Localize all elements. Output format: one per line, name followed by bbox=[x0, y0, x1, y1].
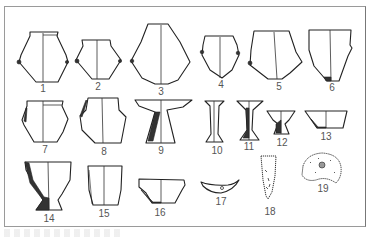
artifact-5 bbox=[248, 31, 302, 79]
artifact-8 bbox=[80, 98, 126, 143]
artifact-18 bbox=[261, 156, 276, 199]
artifact-12 bbox=[267, 111, 295, 134]
label-8: 8 bbox=[101, 146, 107, 157]
label-13: 13 bbox=[320, 131, 332, 142]
artifact-11 bbox=[237, 101, 263, 140]
artifact-13 bbox=[305, 111, 347, 128]
artifact-15 bbox=[88, 166, 122, 205]
label-18: 18 bbox=[264, 206, 276, 217]
artifact-2 bbox=[75, 40, 122, 79]
artifact-3 bbox=[130, 24, 190, 84]
artifact-7 bbox=[22, 101, 68, 142]
label-3: 3 bbox=[158, 86, 164, 97]
artifact-10 bbox=[205, 101, 224, 142]
label-17: 17 bbox=[215, 196, 227, 207]
artifact-19 bbox=[302, 153, 341, 183]
label-9: 9 bbox=[158, 145, 164, 156]
label-2: 2 bbox=[95, 81, 101, 92]
label-16: 16 bbox=[154, 207, 166, 218]
faint-caption-text bbox=[4, 229, 124, 237]
artifact-1 bbox=[17, 32, 69, 82]
artifact-17 bbox=[201, 180, 239, 193]
label-11: 11 bbox=[244, 141, 255, 152]
artifact-14 bbox=[25, 162, 71, 210]
artifact-4 bbox=[200, 36, 240, 78]
label-1: 1 bbox=[40, 83, 46, 94]
artifact-6 bbox=[309, 30, 352, 81]
artifact-9 bbox=[135, 100, 192, 143]
label-4: 4 bbox=[218, 79, 224, 90]
label-12: 12 bbox=[276, 137, 288, 148]
label-5: 5 bbox=[276, 81, 282, 92]
label-15: 15 bbox=[98, 208, 110, 219]
label-14: 14 bbox=[43, 213, 55, 224]
label-10: 10 bbox=[211, 145, 223, 156]
artifact-drawings: 1 2 3 4 5 6 7 bbox=[0, 0, 373, 238]
label-7: 7 bbox=[42, 144, 48, 155]
artifact-16 bbox=[139, 179, 185, 203]
label-6: 6 bbox=[329, 82, 335, 93]
label-19: 19 bbox=[317, 183, 329, 194]
